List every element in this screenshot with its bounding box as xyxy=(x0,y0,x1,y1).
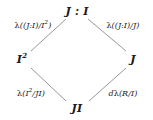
node-right-label: J xyxy=(130,53,135,66)
edge-label-top-right-prefix: ((J:I)/J) xyxy=(112,21,140,30)
edge-label-top-left-prefix: ((J:I)/I xyxy=(20,21,45,30)
node-top-label: J : I xyxy=(65,5,88,18)
edge-label-top-right: λ((J:I)/J) xyxy=(106,21,139,30)
node-bottom: JI xyxy=(72,102,83,115)
lattice-diagram: J : I I2 J JI λ((J:I)/I2) λ((J:I)/J) λ(I… xyxy=(0,0,153,120)
node-right: J xyxy=(130,53,135,66)
node-left-exponent: 2 xyxy=(22,51,27,60)
edge-label-bottom-right-prefix: (R/I) xyxy=(119,89,138,98)
edge-label-bottom-right: dλ(R/I) xyxy=(108,89,137,98)
edge-label-bottom-left: λ(I2/JI) xyxy=(17,89,45,98)
node-bottom-label: JI xyxy=(72,102,83,115)
edge-label-bottom-left-suffix: /JI) xyxy=(32,89,45,98)
edge-label-top-left: λ((J:I)/I2) xyxy=(15,21,52,30)
edge-label-top-left-suffix: ) xyxy=(48,21,51,30)
node-top: J : I xyxy=(65,5,88,18)
node-left: I2 xyxy=(17,53,27,66)
